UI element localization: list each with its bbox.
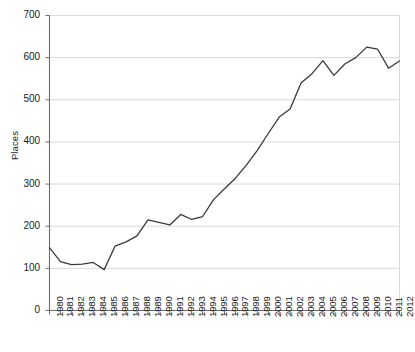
x-tick-label: 2005 [327,296,338,317]
x-tick-label: 1982 [75,296,86,317]
y-tick-label: 100 [6,262,40,273]
x-tick-label: 1987 [130,296,141,317]
y-tick-label: 0 [6,304,40,315]
x-tick-label: 2008 [360,296,371,317]
x-tick-label: 1983 [86,296,97,317]
x-tick-label: 2011 [393,297,404,317]
data-series-line [50,47,400,270]
x-tick-label: 2003 [305,296,316,317]
x-tick-label: 2000 [272,296,283,317]
x-tick-label: 1985 [108,296,119,317]
x-tick-label: 1986 [119,296,130,317]
y-tick-marks [46,16,50,311]
x-tick-label: 2006 [338,296,349,317]
x-tick-label: 2009 [371,296,382,317]
gridlines-group [50,16,400,269]
y-tick-label: 400 [6,135,40,146]
y-tick-label: 600 [6,51,40,62]
x-tick-label: 1988 [141,296,152,317]
x-tick-label: 1990 [163,296,174,317]
x-tick-label: 1994 [207,296,218,317]
x-tick-label: 1995 [218,296,229,317]
y-tick-label: 500 [6,93,40,104]
x-tick-label: 2001 [283,296,294,317]
y-tick-label: 700 [6,9,40,20]
x-tick-label: 2007 [349,296,360,317]
x-tick-label: 2012 [404,296,415,317]
x-tick-label: 1992 [185,296,196,317]
x-tick-label: 2010 [382,296,393,317]
x-tick-label: 1998 [250,296,261,317]
x-tick-label: 1996 [229,296,240,317]
y-tick-label: 200 [6,220,40,231]
x-tick-label: 2002 [294,296,305,317]
x-tick-label: 1980 [54,296,65,317]
x-tick-label: 2004 [316,296,327,317]
x-tick-label: 1993 [196,296,207,317]
x-tick-label: 1984 [97,296,108,317]
x-tick-label: 1997 [239,296,250,317]
y-tick-label: 300 [6,178,40,189]
x-tick-label: 1991 [174,296,185,317]
x-tick-label: 1981 [64,296,75,317]
axis-lines [50,16,400,311]
x-tick-label: 1999 [261,296,272,317]
x-tick-label: 1989 [152,296,163,317]
